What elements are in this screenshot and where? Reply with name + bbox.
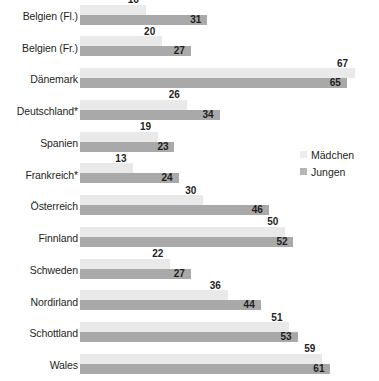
bar-maedchen <box>80 290 228 300</box>
value-label-maedchen: 26 <box>169 89 180 100</box>
value-label-jungen: 24 <box>162 173 173 183</box>
legend-item-maedchen: Mädchen <box>300 146 379 163</box>
value-label-maedchen: 13 <box>115 153 126 164</box>
value-label-jungen: 52 <box>276 237 287 247</box>
bar-jungen <box>80 110 220 120</box>
bar-maedchen <box>80 259 170 269</box>
bar-jungen <box>80 237 293 247</box>
bar-maedchen <box>80 5 146 15</box>
value-label-maedchen: 59 <box>304 343 315 354</box>
bar-maedchen <box>80 163 133 173</box>
value-label-maedchen: 36 <box>210 280 221 291</box>
category-label: Finnland <box>0 232 78 244</box>
value-label-jungen: 65 <box>330 78 341 88</box>
chart-row: Belgien (Fr.)2027 <box>0 32 379 64</box>
bar-maedchen <box>80 132 158 142</box>
category-label: Belgien (Fr.) <box>0 42 78 54</box>
legend-label-maedchen: Mädchen <box>311 149 354 161</box>
bar-group: 5153 <box>80 318 379 350</box>
bar-maedchen <box>80 227 285 237</box>
chart-row: Dänemark6765 <box>0 64 379 96</box>
value-label-maedchen: 30 <box>185 185 196 196</box>
bar-group: 1631 <box>80 0 379 32</box>
value-label-jungen: 31 <box>190 15 201 25</box>
chart-row: Deutschland*2634 <box>0 95 379 127</box>
value-label-maedchen: 22 <box>152 248 163 259</box>
bar-group: 6765 <box>80 64 379 96</box>
chart-row: Österreich3046 <box>0 191 379 223</box>
chart-legend: Mädchen Jungen <box>300 146 379 180</box>
bar-maedchen <box>80 195 203 205</box>
value-label-maedchen: 20 <box>144 26 155 37</box>
bar-group: 5052 <box>80 222 379 254</box>
bar-maedchen <box>80 100 187 110</box>
bar-jungen <box>80 78 347 88</box>
chart-row: Finnland5052 <box>0 222 379 254</box>
bar-group: 3644 <box>80 286 379 318</box>
category-label: Schottland <box>0 327 78 339</box>
bar-maedchen <box>80 354 322 364</box>
category-label: Frankreich* <box>0 169 78 181</box>
category-label: Spanien <box>0 137 78 149</box>
value-label-maedchen: 67 <box>337 58 348 69</box>
value-label-maedchen: 51 <box>271 312 282 323</box>
value-label-jungen: 27 <box>174 269 185 279</box>
legend-item-jungen: Jungen <box>300 163 379 180</box>
chart-row: Nordirland3644 <box>0 286 379 318</box>
bar-jungen <box>80 15 207 25</box>
bar-maedchen <box>80 36 162 46</box>
category-label: Wales <box>0 359 78 371</box>
value-label-jungen: 23 <box>157 142 168 152</box>
value-label-jungen: 46 <box>252 205 263 215</box>
bar-maedchen <box>80 322 289 332</box>
chart-row: Schottland5153 <box>0 318 379 350</box>
legend-swatch-girls-icon <box>300 151 307 158</box>
value-label-maedchen: 19 <box>140 121 151 132</box>
bar-group: 3046 <box>80 191 379 223</box>
bar-maedchen <box>80 68 355 78</box>
bar-group: 5961 <box>80 349 379 381</box>
value-label-jungen: 44 <box>244 300 255 310</box>
bar-jungen <box>80 332 298 342</box>
category-label: Deutschland* <box>0 105 78 117</box>
chart-row: Schweden2227 <box>0 254 379 286</box>
chart-row: Wales5961 <box>0 349 379 381</box>
category-label: Nordirland <box>0 296 78 308</box>
grouped-bar-chart: Belgien (Fl.)1631Belgien (Fr.)2027Dänema… <box>0 0 379 381</box>
bar-group: 2227 <box>80 254 379 286</box>
value-label-jungen: 61 <box>313 364 324 374</box>
value-label-jungen: 27 <box>174 46 185 56</box>
bar-jungen <box>80 364 330 374</box>
legend-label-jungen: Jungen <box>311 166 345 178</box>
category-label: Belgien (Fl.) <box>0 10 78 22</box>
value-label-jungen: 53 <box>281 332 292 342</box>
bar-jungen <box>80 300 261 310</box>
category-label: Dänemark <box>0 73 78 85</box>
bar-group: 2634 <box>80 95 379 127</box>
chart-row: Belgien (Fl.)1631 <box>0 0 379 32</box>
legend-swatch-jungen-icon <box>300 168 307 175</box>
value-label-maedchen: 16 <box>128 0 139 5</box>
category-label: Österreich <box>0 200 78 212</box>
bar-jungen <box>80 205 269 215</box>
category-label: Schweden <box>0 264 78 276</box>
bar-group: 2027 <box>80 32 379 64</box>
value-label-jungen: 34 <box>203 110 214 120</box>
value-label-maedchen: 50 <box>267 216 278 227</box>
